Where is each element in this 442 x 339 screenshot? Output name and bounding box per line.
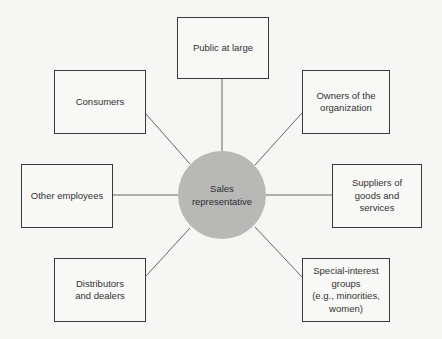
node-label: Consumers: [76, 96, 125, 109]
node-consumers: Consumers: [54, 70, 146, 134]
node-label: Distributors and dealers: [75, 278, 125, 303]
node-label: Other employees: [31, 190, 103, 203]
connector-special: [255, 227, 302, 277]
node-public-at-large: Public at large: [177, 17, 269, 79]
connector-consumers: [146, 114, 190, 164]
hub-sales-representative: Sales representative: [178, 151, 266, 239]
node-suppliers: Suppliers of goods and services: [332, 164, 422, 228]
node-label: Special-interest groups (e.g., minoritie…: [312, 265, 380, 315]
connector-owners: [255, 113, 302, 165]
hub-label: Sales representative: [192, 182, 252, 208]
node-label: Suppliers of goods and services: [352, 177, 402, 215]
node-label: Owners of the organization: [316, 90, 375, 115]
connector-distrib: [146, 228, 190, 276]
node-label: Public at large: [193, 42, 253, 55]
node-other-employees: Other employees: [21, 164, 113, 228]
node-owners-of-organization: Owners of the organization: [302, 70, 390, 134]
node-special-interest-groups: Special-interest groups (e.g., minoritie…: [302, 258, 390, 322]
node-distributors-and-dealers: Distributors and dealers: [54, 258, 146, 322]
